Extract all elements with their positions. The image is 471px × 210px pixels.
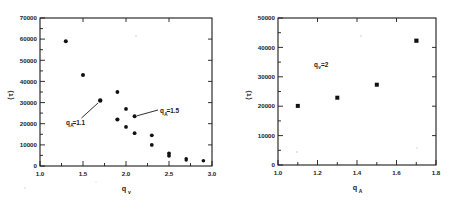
left-y-axis-title: ⟨τ⟩ [6,90,15,99]
left-x-axis-title-sub: v [128,189,131,195]
left-y-ticklabel-20000: 20000 [20,120,38,127]
right-y-ticklabel-30000: 30000 [258,73,276,80]
right-y-right-ticks [432,47,436,135]
data-point [150,133,154,137]
right-x-top-ticks [318,18,397,22]
data-point [133,131,137,135]
scan-speck [296,151,298,153]
figure-container: 0 10000 20000 30000 40000 50000 60000 70… [0,0,471,210]
left-y-ticklabel-30000: 30000 [20,99,38,106]
data-point [124,107,128,111]
left-x-axis-title: q v [122,184,131,195]
left-annotation-qa-1-5: q A =1.5 [137,107,180,117]
right-x-major-ticks [278,160,436,165]
left-annotation-1-tail: =1.1 [73,119,86,126]
data-point [115,117,119,121]
left-y-ticklabel-60000: 60000 [20,35,38,42]
left-x-ticklabel-1.0: 1.0 [36,170,45,177]
data-point [335,96,339,100]
data-point [150,143,154,147]
data-point [414,39,418,43]
data-point [375,83,379,87]
data-point [124,125,128,129]
scan-speck [360,35,362,37]
right-x-axis-title: q A [353,183,363,194]
right-x-ticklabel-1.4: 1.4 [353,169,362,176]
right-y-axis-title: ⟨τ⟩ [244,90,253,99]
right-y-ticklabel-0: 0 [272,161,276,168]
right-x-ticklabel-1.8: 1.8 [432,169,441,176]
right-y-ticklabel-20000: 20000 [258,102,276,109]
left-y-ticklabel-0: 0 [34,162,38,169]
left-x-ticklabel-1.5: 1.5 [79,170,88,177]
left-x-ticklabel-2.0: 2.0 [122,170,131,177]
right-y-ticklabel-40000: 40000 [258,44,276,51]
left-data-markers [64,39,205,162]
left-y-ticklabel-50000: 50000 [20,57,38,64]
left-annotation-2-tail: =1.5 [167,107,180,114]
right-x-ticklabel-1.6: 1.6 [392,169,401,176]
data-point [167,154,171,158]
left-y-right-ticks [208,39,212,145]
left-scatter-panel: 0 10000 20000 30000 40000 50000 60000 70… [0,0,236,210]
right-x-ticklabel-1.0: 1.0 [274,169,283,176]
scan-speck [135,35,137,37]
right-plot-frame [278,18,436,165]
data-point [185,158,188,161]
scan-speck [95,181,96,182]
right-data-markers [296,39,419,108]
right-y-ticklabel-10000: 10000 [258,132,276,139]
left-x-axis-title-main: q [122,184,126,193]
right-x-ticklabel-1.2: 1.2 [313,169,322,176]
data-point [133,114,137,118]
left-plot-svg: 0 10000 20000 30000 40000 50000 60000 70… [0,0,236,210]
right-x-axis-title-sub: A [359,188,363,194]
left-annotation-qa-1-1: q A =1.1 [66,103,98,128]
data-point [202,159,206,163]
left-y-ticklabel-40000: 40000 [20,78,38,85]
right-annotation-qv-2: q v =2 [314,61,329,71]
right-scatter-panel: 0 10000 20000 30000 40000 50000 1.0 1.2 … [236,0,471,210]
left-x-top-ticks [83,18,169,22]
right-annotation-1-tail: =2 [321,61,329,68]
scan-speck [416,147,417,148]
data-point [64,39,68,43]
data-point [296,104,300,108]
right-plot-svg: 0 10000 20000 30000 40000 50000 1.0 1.2 … [236,0,471,210]
data-point [116,90,120,94]
left-y-ticklabel-70000: 70000 [20,14,38,21]
left-y-ticklabel-10000: 10000 [20,141,38,148]
scan-speck [24,187,25,188]
right-x-axis-title-main: q [353,183,357,192]
left-x-ticklabel-2.5: 2.5 [165,170,174,177]
right-y-ticklabel-50000: 50000 [258,14,276,21]
data-point [81,73,85,77]
data-point [98,98,102,102]
left-x-ticklabel-3.0: 3.0 [208,170,217,177]
